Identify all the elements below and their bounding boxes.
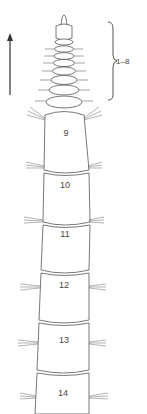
bracket-label: 1–8: [116, 57, 129, 66]
segment-label-9: 9: [63, 129, 68, 138]
head-proboscis: [56, 15, 72, 40]
segment-label-14: 14: [58, 389, 68, 398]
segment-label-11: 11: [60, 230, 69, 239]
segment-label-12: 12: [59, 281, 69, 290]
direction-arrow-icon: [7, 33, 13, 95]
segment-label-13: 13: [59, 336, 69, 345]
posterior-segments: [35, 112, 90, 414]
anterior-segments-1-8: [35, 39, 93, 108]
segment-label-10: 10: [60, 181, 70, 190]
